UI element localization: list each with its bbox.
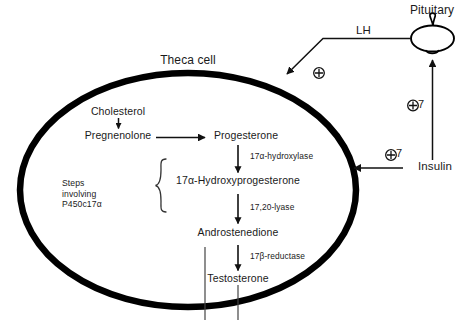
metabolite-hydroxyprogesterone: 17α-Hydroxyprogesterone xyxy=(176,175,300,186)
p450c17a-steps-label: Steps involving P450c17α xyxy=(62,178,102,210)
metabolite-pregnenolone: Pregnenolone xyxy=(85,130,152,141)
steps-line-2: involving xyxy=(62,189,102,200)
pathway-diagram: Theca cell Pituitary LH Insulin Choleste… xyxy=(0,0,473,330)
enzyme-17b-reductase: 17β-reductase xyxy=(250,252,305,261)
metabolite-testosterone: Testosterone xyxy=(207,273,268,284)
pituitary-gland-body xyxy=(411,26,454,52)
lh-label: LH xyxy=(356,24,371,36)
insulin-pituitary-plus-symbol xyxy=(408,100,419,111)
p450c17a-brace xyxy=(156,159,167,212)
lh-arrow xyxy=(287,39,411,75)
metabolite-cholesterol: Cholesterol xyxy=(91,106,145,117)
insulin-pituitary-plus-text: 7 xyxy=(418,99,424,111)
enzyme-17-20-lyase: 17,20-lyase xyxy=(250,203,294,212)
pituitary-label: Pituitary xyxy=(410,4,454,17)
enzyme-17a-hydroxylase: 17α-hydroxylase xyxy=(250,152,313,161)
lh-plus-symbol xyxy=(314,68,325,79)
steps-line-3: P450c17α xyxy=(62,199,102,210)
insulin-theca-plus-symbol xyxy=(386,150,397,161)
steps-line-1: Steps xyxy=(62,178,102,189)
insulin-label: Insulin xyxy=(418,160,452,172)
insulin-theca-plus-text: 7 xyxy=(396,148,402,160)
metabolite-progesterone: Progesterone xyxy=(214,130,278,141)
metabolite-androstenedione: Androstenedione xyxy=(198,227,279,238)
theca-cell-label: Theca cell xyxy=(160,54,216,67)
